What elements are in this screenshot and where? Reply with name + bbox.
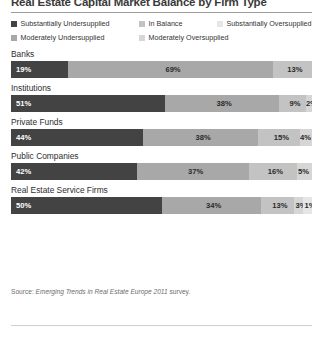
bar-segment-value: 69%: [160, 65, 180, 74]
bar-segment[interactable]: 13%: [261, 197, 294, 214]
bar-group: Real Estate Service Firms50%34%13%3%1%: [11, 185, 312, 214]
bottom-divider: [11, 325, 312, 326]
bar-segment-value: 38%: [212, 99, 232, 108]
legend-swatch-icon: [11, 35, 17, 41]
bar-segment-value: 15%: [269, 133, 289, 142]
bar-group-label: Institutions: [11, 83, 312, 93]
bar-group: Private Funds44%38%15%4%: [11, 117, 312, 146]
bar-segment-value: 51%: [11, 99, 31, 108]
legend-label: Moderately Oversupplied: [149, 33, 229, 42]
bar-segment[interactable]: 5%: [297, 163, 312, 180]
bar-segment[interactable]: 50%: [11, 197, 162, 214]
stacked-bar-plot-area: Banks19%69%13%Institutions51%38%9%2%Priv…: [11, 49, 312, 219]
bar-segment-value: 34%: [201, 201, 221, 210]
title-divider: [11, 12, 312, 13]
legend-label: Moderately Undersupplied: [21, 33, 105, 42]
stacked-bar: 42%37%16%5%: [11, 163, 312, 180]
bar-segment-value: 1%: [303, 201, 312, 210]
bar-segment[interactable]: 13%: [273, 61, 312, 78]
bar-group-label: Private Funds: [11, 117, 312, 127]
bar-segment-value: 50%: [11, 201, 31, 210]
bar-group: Public Companies42%37%16%5%: [11, 151, 312, 180]
bar-segment[interactable]: 38%: [143, 129, 257, 146]
source-suffix: survey.: [170, 288, 191, 295]
legend-swatch-icon: [217, 21, 223, 27]
bar-segment[interactable]: 16%: [249, 163, 297, 180]
bar-segment-value: 44%: [11, 133, 31, 142]
bar-segment[interactable]: 44%: [11, 129, 143, 146]
bar-group-label: Banks: [11, 49, 312, 59]
chart-figure: Real Estate Capital Market Balance by Fi…: [0, 0, 323, 337]
legend-item[interactable]: Moderately Undersupplied: [11, 33, 139, 42]
legend-row: Substantially UndersuppliedIn BalanceSub…: [11, 19, 313, 31]
bar-group-label: Real Estate Service Firms: [11, 185, 312, 195]
legend-row: Moderately UndersuppliedModerately Overs…: [11, 33, 313, 45]
chart-legend: Substantially UndersuppliedIn BalanceSub…: [11, 19, 313, 47]
source-label: Source:: [11, 288, 34, 295]
bar-segment[interactable]: 37%: [137, 163, 248, 180]
bar-segment[interactable]: 4%: [300, 129, 312, 146]
bar-segment-value: 38%: [191, 133, 211, 142]
bar-segment-value: 13%: [267, 201, 287, 210]
legend-item[interactable]: Substantially Oversupplied: [217, 19, 312, 28]
bar-segment-value: 9%: [284, 99, 300, 108]
bar-segment-value: 5%: [298, 167, 312, 176]
chart-title: Real Estate Capital Market Balance by Fi…: [11, 0, 315, 8]
bar-segment[interactable]: 15%: [258, 129, 300, 146]
bar-segment[interactable]: 34%: [162, 197, 261, 214]
bar-segment[interactable]: 1%: [303, 197, 312, 214]
bar-segment[interactable]: 42%: [11, 163, 137, 180]
bar-segment[interactable]: 38%: [165, 95, 279, 112]
bar-segment-value: 13%: [282, 65, 302, 74]
source-note: Source: Emerging Trends in Real Estate E…: [11, 288, 190, 295]
bar-segment[interactable]: 9%: [279, 95, 306, 112]
legend-swatch-icon: [139, 21, 145, 27]
bar-group-label: Public Companies: [11, 151, 312, 161]
bar-segment-value: 19%: [11, 65, 31, 74]
legend-swatch-icon: [139, 35, 145, 41]
bar-segment-value: 16%: [263, 167, 283, 176]
bar-segment-value: 4%: [300, 133, 312, 142]
legend-item[interactable]: Substantially Undersupplied: [11, 19, 139, 28]
bar-segment[interactable]: 3%: [294, 197, 303, 214]
bar-segment-value: 37%: [183, 167, 203, 176]
bar-segment-value: 2%: [306, 99, 312, 108]
bar-group: Banks19%69%13%: [11, 49, 312, 78]
bar-segment-value: 42%: [11, 167, 31, 176]
bar-segment[interactable]: 51%: [11, 95, 165, 112]
stacked-bar: 51%38%9%2%: [11, 95, 312, 112]
source-publication-title: Emerging Trends in Real Estate Europe 20…: [36, 288, 168, 295]
legend-item[interactable]: Moderately Oversupplied: [139, 33, 217, 42]
bar-group: Institutions51%38%9%2%: [11, 83, 312, 112]
legend-label: In Balance: [149, 19, 183, 28]
bar-segment[interactable]: 2%: [306, 95, 312, 112]
bar-segment[interactable]: 69%: [68, 61, 273, 78]
legend-label: Substantially Undersupplied: [21, 19, 110, 28]
bar-segment[interactable]: 19%: [11, 61, 68, 78]
legend-swatch-icon: [11, 21, 17, 27]
legend-label: Substantially Oversupplied: [227, 19, 312, 28]
stacked-bar: 50%34%13%3%1%: [11, 197, 312, 214]
legend-item[interactable]: In Balance: [139, 19, 217, 28]
stacked-bar: 19%69%13%: [11, 61, 312, 78]
stacked-bar: 44%38%15%4%: [11, 129, 312, 146]
bar-segment-value: 3%: [294, 201, 303, 210]
